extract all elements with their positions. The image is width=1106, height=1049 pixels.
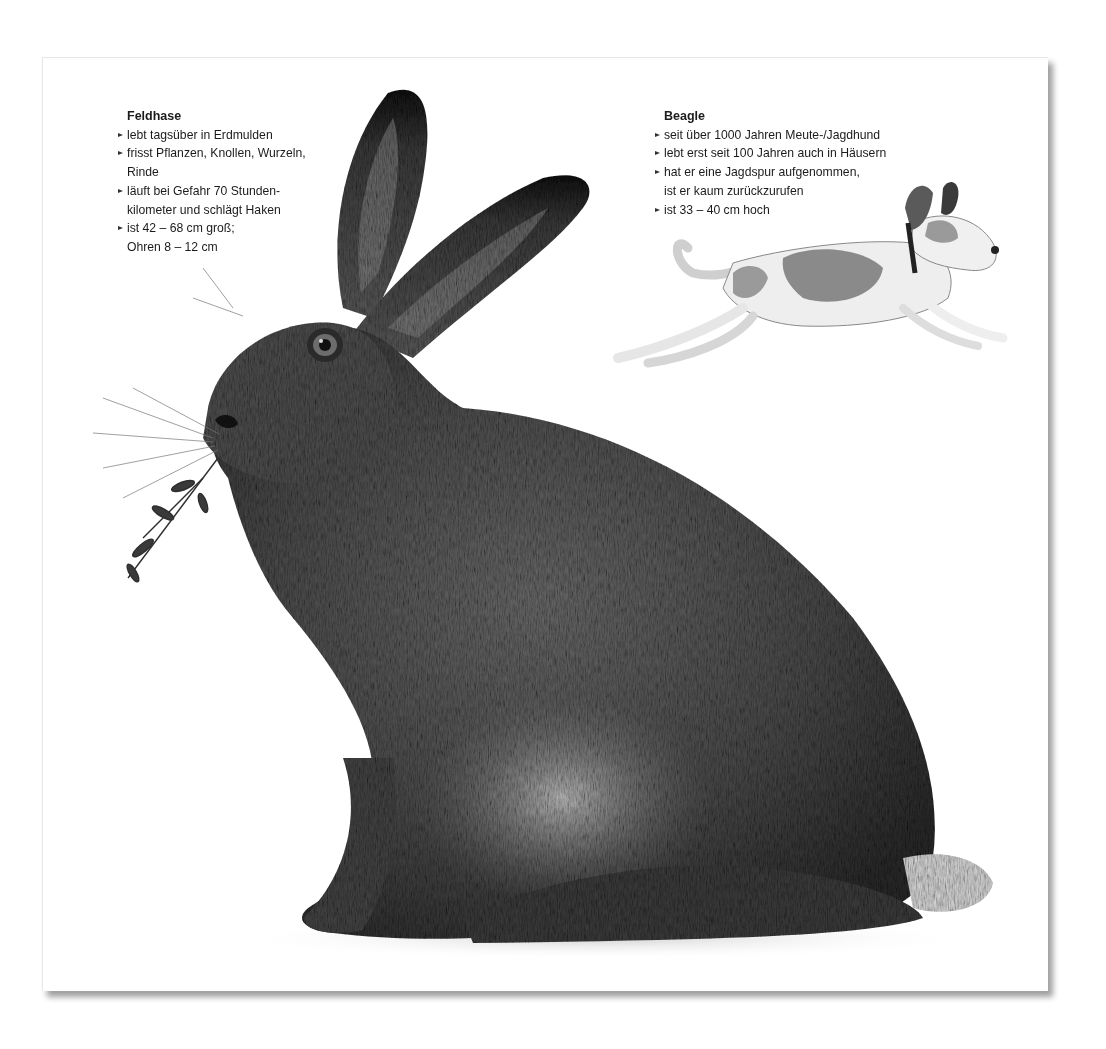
hare-fact: frisst Pflanzen, Knollen, Wurzeln,Rinde [118,144,338,181]
hare-fact: läuft bei Gefahr 70 Stunden-kilometer un… [118,182,338,219]
twig-icon [125,458,218,583]
illustration-card: Feldhase lebt tagsüber in Erdmulden fris… [42,57,1048,991]
beagle-fact: seit über 1000 Jahren Meute-/Jagdhund [655,126,945,145]
hare-fact: lebt tagsüber in Erdmulden [118,126,338,145]
beagle-infobox: Beagle seit über 1000 Jahren Meute-/Jagd… [655,107,945,219]
hare-infobox: Feldhase lebt tagsüber in Erdmulden fris… [118,107,338,257]
beagle-facts-list: seit über 1000 Jahren Meute-/Jagdhund le… [655,126,945,220]
hare-title: Feldhase [127,107,338,126]
beagle-title: Beagle [664,107,945,126]
beagle-fact: hat er eine Jagdspur aufgenommen,ist er … [655,163,945,200]
beagle-fact: lebt erst seit 100 Jahren auch in Häuser… [655,144,945,163]
beagle-fact: ist 33 – 40 cm hoch [655,201,945,220]
hare-eye [307,328,343,362]
hare-fact: ist 42 – 68 cm groß;Ohren 8 – 12 cm [118,219,338,256]
hare-facts-list: lebt tagsüber in Erdmulden frisst Pflanz… [118,126,338,257]
